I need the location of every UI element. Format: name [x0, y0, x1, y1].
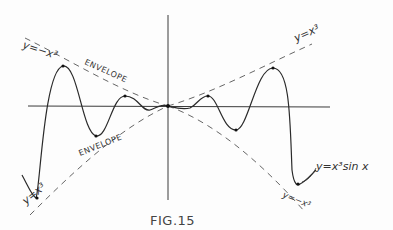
tangent-point — [61, 64, 64, 67]
envelope-upper-right — [168, 44, 312, 106]
diagram-svg: y=−x³ ENVELOPE ENVELOPE y=x³ y=x³ y=x³si… — [0, 0, 393, 230]
tangent-point — [94, 134, 97, 137]
curve-x3sinx — [22, 66, 316, 198]
label-curve: y=x³sin x — [315, 160, 369, 173]
curve-label-leader — [302, 168, 316, 182]
tangent-point — [296, 182, 299, 185]
tangent-point — [271, 66, 274, 69]
tangent-point — [206, 94, 209, 97]
label-bottom-right-envelope: y=−x³ — [280, 189, 312, 210]
figure-canvas: y=−x³ ENVELOPE ENVELOPE y=x³ y=x³ y=x³si… — [0, 0, 393, 230]
label-top-left-envelope: y=−x³ — [20, 38, 60, 62]
envelope-lower-left — [30, 106, 168, 215]
label-lower-envelope: ENVELOPE — [77, 132, 123, 158]
tangent-point — [234, 128, 237, 131]
label-bottom-left-envelope: y=x³ — [19, 180, 49, 208]
origin-point — [166, 104, 170, 108]
label-top-right-envelope: y=x³ — [291, 22, 322, 45]
tangent-point — [123, 94, 126, 97]
figure-caption: FIG.15 — [150, 213, 195, 228]
x-axis — [28, 106, 330, 107]
